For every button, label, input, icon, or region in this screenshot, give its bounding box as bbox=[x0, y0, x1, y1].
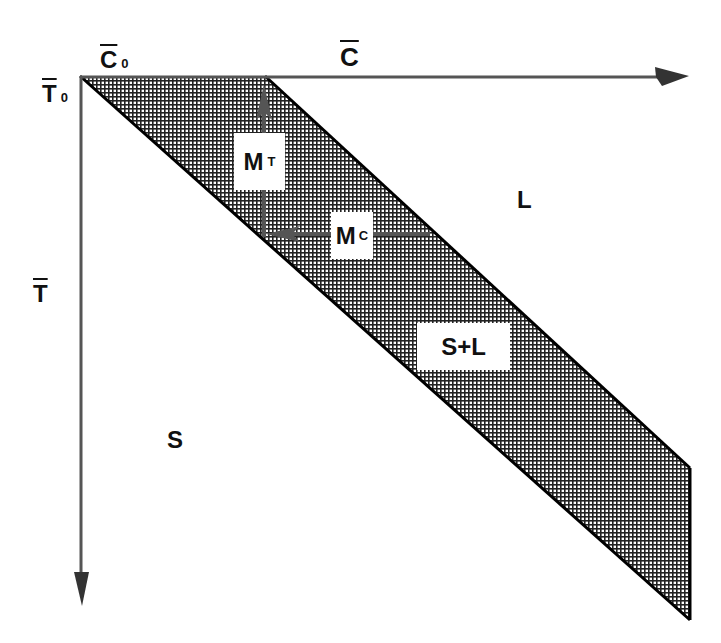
solid-region-label: S bbox=[167, 428, 183, 452]
solidus-line bbox=[80, 76, 690, 620]
c0-label: C0 bbox=[100, 48, 129, 72]
t0-symbol: T bbox=[42, 80, 57, 107]
x-axis-label: C bbox=[340, 44, 359, 70]
mt-sub: T bbox=[268, 154, 276, 169]
mushy-region-label: S+L bbox=[441, 333, 486, 361]
t0-label: T0 bbox=[42, 82, 68, 106]
mc-label: M bbox=[336, 222, 356, 250]
y-axis-label: T bbox=[33, 282, 48, 306]
mt-label: M bbox=[244, 148, 264, 176]
c0-sub: 0 bbox=[121, 56, 128, 71]
t0-sub: 0 bbox=[61, 90, 68, 105]
mushy-region-label-box: S+L bbox=[417, 323, 510, 370]
liquid-region-label: L bbox=[517, 188, 532, 212]
y-axis-arrowhead bbox=[74, 572, 89, 606]
mc-sub: C bbox=[359, 228, 368, 243]
diagram-canvas bbox=[0, 0, 721, 643]
x-axis-arrowhead bbox=[655, 67, 689, 86]
mc-label-box: MC bbox=[331, 212, 373, 259]
mt-label-box: MT bbox=[234, 133, 285, 190]
c0-symbol: C bbox=[100, 46, 117, 73]
